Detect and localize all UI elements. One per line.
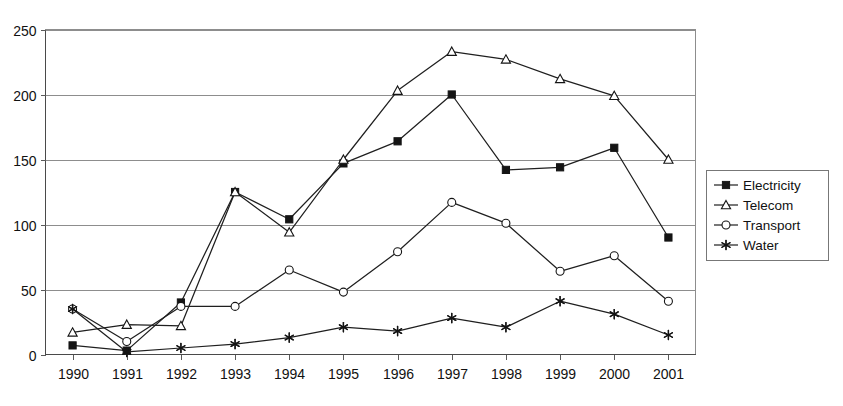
datapoint-marker-square: [665, 234, 672, 241]
x-axis-tick-label: 1995: [328, 366, 359, 382]
x-axis-tick-label: 2001: [653, 366, 684, 382]
legend-swatch-marker-circle: [722, 221, 730, 229]
datapoint-marker-circle: [285, 266, 293, 274]
x-axis-tick-label: 1997: [437, 366, 468, 382]
y-axis-tick-label: 150: [13, 153, 37, 169]
datapoint-marker-square: [556, 164, 563, 171]
datapoint-marker-square: [448, 91, 455, 98]
chart-legend: ElectricityTelecomTransportWater: [707, 171, 829, 261]
y-axis-tick-label: 100: [13, 218, 37, 234]
series-line-water: [73, 301, 669, 352]
datapoint-marker-asterisk: [556, 297, 564, 306]
datapoint-marker-circle: [664, 297, 672, 305]
datapoint-marker-asterisk: [664, 330, 672, 339]
series-transport: [69, 198, 673, 345]
y-axis-tick-label: 200: [13, 88, 37, 104]
x-axis-tick-label: 1999: [545, 366, 576, 382]
x-axis-tick-label: 1998: [491, 366, 522, 382]
datapoint-marker-circle: [339, 288, 347, 296]
x-axis-ticks: [74, 355, 669, 360]
datapoint-marker-circle: [502, 219, 510, 227]
datapoint-marker-circle: [556, 267, 564, 275]
series-line-transport: [73, 202, 669, 341]
x-axis-tick-label: 1994: [274, 366, 305, 382]
datapoint-marker-circle: [448, 198, 456, 206]
x-axis-tick-label: 1991: [112, 366, 143, 382]
x-axis-tick-label: 1990: [58, 366, 89, 382]
datapoint-marker-square: [611, 144, 618, 151]
x-axis-tick-labels: 1990199119921993199419951996199719981999…: [58, 366, 684, 382]
line-chart: 050100150200250 199019911992199319941995…: [0, 0, 843, 406]
y-axis-tick-label: 0: [29, 348, 37, 364]
datapoint-marker-triangle: [393, 86, 402, 94]
legend-swatch-marker-square: [722, 181, 729, 188]
y-axis-tick-label: 250: [13, 23, 37, 39]
plot-area-border: [46, 30, 696, 355]
legend-item-label: Water: [743, 238, 779, 253]
datapoint-marker-circle: [231, 302, 239, 310]
x-axis-tick-label: 1993: [220, 366, 251, 382]
data-series-group: [68, 47, 673, 357]
series-water: [69, 297, 673, 357]
y-axis-tick-label: 50: [21, 283, 37, 299]
datapoint-marker-circle: [610, 252, 618, 260]
datapoint-marker-square: [286, 216, 293, 223]
datapoint-marker-triangle: [447, 47, 456, 55]
datapoint-marker-square: [502, 166, 509, 173]
series-electricity: [69, 91, 672, 354]
x-axis-tick-label: 2000: [599, 366, 630, 382]
datapoint-marker-square: [69, 342, 76, 349]
x-axis-tick-label: 1992: [166, 366, 197, 382]
legend-item-label: Transport: [743, 218, 801, 233]
datapoint-marker-circle: [123, 338, 131, 346]
datapoint-marker-circle: [394, 248, 402, 256]
chart-page: 050100150200250 199019911992199319941995…: [0, 0, 843, 406]
datapoint-marker-triangle: [555, 74, 564, 82]
legend-item-label: Electricity: [743, 178, 801, 193]
series-line-electricity: [73, 95, 669, 351]
y-axis-tick-labels: 050100150200250: [13, 23, 37, 364]
series-telecom: [68, 47, 673, 336]
datapoint-marker-asterisk: [610, 310, 618, 319]
datapoint-marker-circle: [177, 302, 185, 310]
x-axis-tick-label: 1996: [383, 366, 414, 382]
datapoint-marker-square: [394, 138, 401, 145]
y-axis-ticks: [41, 31, 46, 356]
gridlines: [46, 31, 696, 291]
legend-item-label: Telecom: [743, 198, 793, 213]
